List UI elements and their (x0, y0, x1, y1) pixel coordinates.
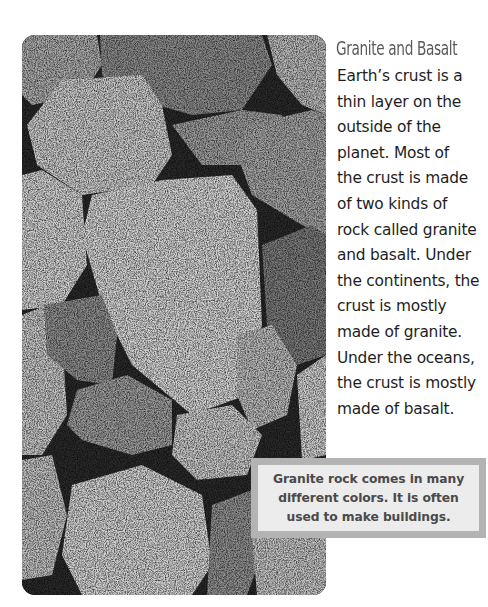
body-line: Earth’s crust is a (337, 64, 488, 90)
caption-line: Granite rock comes in many (273, 470, 464, 489)
section-title: Granite and Basalt (336, 37, 445, 59)
body-paragraph: Earth’s crust is a thin layer on the out… (337, 64, 488, 422)
body-line: made of basalt. (337, 397, 488, 423)
body-line: made of granite. (337, 320, 488, 346)
caption-line: used to make buildings. (287, 508, 451, 527)
body-line: of two kinds of (337, 192, 488, 218)
body-line: thin layer on the (337, 90, 488, 116)
body-line: the continents, the (337, 269, 488, 295)
caption-text: Granite rock comes in many different col… (258, 465, 479, 531)
body-line: rock called granite (337, 218, 488, 244)
body-line: the crust is mostly (337, 371, 488, 397)
body-line: crust is mostly (337, 294, 488, 320)
body-line: Under the oceans, (337, 346, 488, 372)
body-line: the crust is made (337, 166, 488, 192)
body-line: and basalt. Under (337, 243, 488, 269)
photo-caption-box: Granite rock comes in many different col… (251, 458, 486, 538)
caption-line: different colors. It is often (278, 489, 459, 508)
body-line: planet. Most of (337, 141, 488, 167)
body-line: outside of the (337, 115, 488, 141)
